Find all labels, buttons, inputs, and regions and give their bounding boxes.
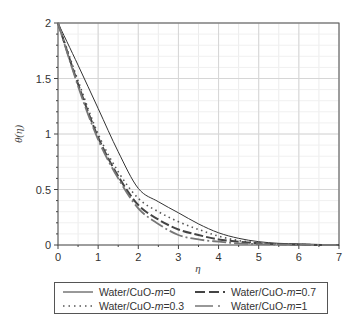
dash-dot-line-icon [195,303,225,309]
line-chart: 0123456700.511.52 η θ(η) [0,0,360,282]
y-tick-label: 1 [45,128,51,140]
y-tick-label: 0 [45,239,51,251]
y-axis-label: θ(η) [12,125,25,144]
legend-label: Water/CuO-m=0.3 [99,300,184,312]
dotted-line-icon [63,303,93,309]
y-tick-label: 1.5 [36,73,51,85]
legend-label: Water/CuO-m=0.7 [231,286,316,298]
legend: Water/CuO-m=0 Water/CuO-m=0.7 Water/CuO-… [54,282,328,314]
legend-label: Water/CuO-m=0 [99,286,175,298]
x-tick-label: 4 [216,251,222,263]
y-tick-label: 0.5 [36,184,51,196]
x-tick-label: 1 [95,251,101,263]
legend-label: Water/CuO-m=1 [231,300,307,312]
x-tick-label: 2 [135,251,141,263]
legend-item-m0: Water/CuO-m=0 [63,285,175,299]
x-tick-label: 0 [55,251,61,263]
solid-line-icon [63,289,93,295]
x-tick-label: 7 [336,251,342,263]
legend-item-m03: Water/CuO-m=0.3 [63,299,184,313]
legend-item-m1: Water/CuO-m=1 [195,299,307,313]
x-tick-label: 5 [256,251,262,263]
x-tick-label: 3 [175,251,181,263]
grid-lines [58,23,339,245]
dashed-line-icon [195,289,225,295]
x-axis-label: η [195,262,200,274]
legend-item-m07: Water/CuO-m=0.7 [195,285,316,299]
axis-ticks: 0123456700.511.52 [36,17,342,263]
x-tick-label: 6 [296,251,302,263]
y-tick-label: 2 [45,17,51,29]
